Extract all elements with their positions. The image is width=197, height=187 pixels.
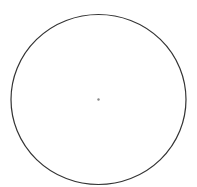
- pie-chart: [0, 0, 197, 187]
- pie-center: [97, 98, 99, 100]
